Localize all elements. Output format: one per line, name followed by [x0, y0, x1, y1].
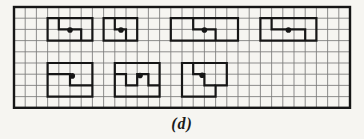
center-dot: [137, 73, 143, 79]
center-dot: [199, 73, 205, 79]
center-dot: [118, 27, 124, 33]
figure-caption: (d): [0, 115, 364, 133]
center-dot: [202, 27, 208, 33]
graph-paper-diagram: [0, 0, 364, 113]
cut-line: [115, 74, 160, 85]
center-dot: [69, 73, 75, 79]
center-dot: [67, 27, 73, 33]
center-dot: [286, 27, 292, 33]
figure-panel: (d): [0, 0, 364, 139]
